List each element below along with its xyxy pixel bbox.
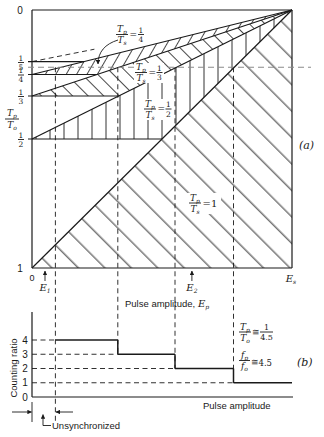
marker-label: E1: [38, 282, 50, 294]
level-guides: [32, 340, 234, 383]
panel-b-label: (b): [297, 356, 313, 369]
y-axis-title: Counting ratio: [8, 338, 19, 397]
tick-denominator: 4: [19, 75, 24, 84]
equals-sign: =: [130, 30, 138, 40]
curve-label-one: Tp Ts =1: [187, 193, 221, 215]
tick-numerator: 1: [19, 88, 24, 97]
y-title-numerator: Tp: [7, 108, 17, 120]
annotation-denominator: fo: [240, 361, 248, 372]
unsynchronized-label: Unsynchronized: [52, 420, 120, 431]
value-denominator: 4.5: [260, 333, 273, 342]
value-denominator: 4: [139, 35, 144, 44]
up-arrow-icon: [43, 415, 51, 426]
value-numerator: 1: [139, 26, 144, 35]
value-denominator: 3: [157, 73, 162, 82]
tick-numerator: 1: [19, 131, 24, 140]
x-axis-title: Pulse amplitude, Ep: [125, 298, 209, 311]
y-tick-fraction-1-3: 1 3: [18, 88, 24, 106]
panel-b: 4 3 2 1 0 Counting ratio Tp To ≅ 1 4.5 f…: [8, 312, 313, 431]
curve-label-half: Tp Ts = 1 2: [143, 99, 174, 121]
marker-label: E2: [185, 282, 197, 294]
tick-numerator: 1: [19, 66, 24, 75]
curve-label-third: Tp Ts = 1 3: [134, 62, 164, 84]
y-tick-3: 3: [22, 349, 28, 360]
y-tick-top: 0: [17, 5, 23, 16]
value-numerator: 1: [157, 64, 162, 73]
y-axis-title: Tp To: [5, 108, 19, 131]
approx-sign: ≅: [252, 327, 260, 337]
value-denominator: 2: [166, 110, 171, 119]
ratio-line: [32, 49, 94, 61]
equals-one: =1: [203, 198, 218, 209]
frequency-ratio-annotation: fp fo ≅ 4.5: [239, 350, 272, 372]
equals-sign: =: [149, 68, 157, 78]
label-denominator: Ts: [117, 35, 126, 46]
synchronization-figure: 0 1 1 5 1 4 1 3 1 2 Tp To 0 Es: [0, 0, 324, 437]
value-numerator: 1: [166, 100, 171, 109]
equals-sign: =: [158, 104, 166, 114]
tick-numerator: 1: [19, 54, 24, 63]
x-origin-tick: 0: [29, 273, 34, 283]
y-tick-2: 2: [22, 363, 28, 374]
frequency-value: 4.5: [259, 358, 273, 368]
unsynchronized-indicator: Unsynchronized: [12, 402, 120, 431]
period-ratio-annotation: Tp To ≅ 1 4.5: [239, 322, 273, 344]
y-tick-0: 0: [22, 392, 28, 403]
marker-e1: E1: [38, 271, 50, 294]
x-axis-title: Pulse amplitude: [203, 400, 271, 411]
y-tick-fraction-1-4: 1 4: [18, 66, 24, 84]
annotation-denominator: To: [240, 333, 250, 344]
panel-a: 0 1 1 5 1 4 1 3 1 2 Tp To 0 Es: [5, 5, 314, 311]
marker-e2: E2: [185, 271, 197, 294]
tick-denominator: 3: [19, 97, 24, 106]
tick-denominator: 2: [19, 140, 24, 149]
x-end-label: Es: [285, 273, 296, 285]
value-numerator: 1: [264, 323, 269, 332]
y-title-denominator: To: [7, 120, 17, 131]
y-tick-1: 1: [22, 377, 28, 388]
y-tick-4: 4: [22, 335, 28, 346]
panel-a-label: (a): [299, 139, 314, 152]
y-tick-bottom: 1: [17, 263, 23, 274]
y-tick-fraction-1-2: 1 2: [18, 131, 24, 149]
